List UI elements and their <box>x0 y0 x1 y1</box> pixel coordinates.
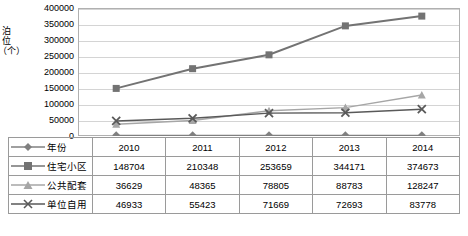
cell-unit-2013: 72693 <box>313 195 386 214</box>
triangle-marker-icon <box>11 180 45 190</box>
diamond-marker-icon <box>11 142 45 152</box>
cell-public-2011: 48365 <box>166 176 239 195</box>
cell-public-2010: 36629 <box>92 176 165 195</box>
cell-residential-2011: 210348 <box>166 157 239 176</box>
y-tick-5: 250000 <box>44 52 74 61</box>
chart-figure: 泊位（个） 0 50000 100000 150000 200000 25000… <box>0 0 468 236</box>
header-2010: 2010 <box>92 138 165 157</box>
y-tick-7: 350000 <box>44 20 74 29</box>
series-layer <box>78 8 460 136</box>
cell-public-2013: 88783 <box>313 176 386 195</box>
cross-marker-icon <box>11 199 45 209</box>
header-2013: 2013 <box>313 138 386 157</box>
y-axis-tick-labels: 0 50000 100000 150000 200000 250000 3000… <box>22 4 74 136</box>
legend-label-unit: 单位自用 <box>47 197 87 211</box>
legend-label-year: 年份 <box>47 140 67 154</box>
legend-cell-residential: 住宅小区 <box>9 157 93 176</box>
y-tick-4: 200000 <box>44 68 74 77</box>
cell-unit-2011: 55423 <box>166 195 239 214</box>
cell-residential-2014: 374673 <box>386 157 459 176</box>
cell-unit-2012: 71669 <box>239 195 312 214</box>
legend-cell-year: 年份 <box>9 138 93 157</box>
header-2012: 2012 <box>239 138 312 157</box>
y-tick-2: 100000 <box>44 100 74 109</box>
y-tick-6: 300000 <box>44 36 74 45</box>
legend-label-public: 公共配套 <box>47 178 87 192</box>
table-row: 住宅小区 148704 210348 253659 344171 374673 <box>9 157 460 176</box>
y-axis-title: 泊位（个） <box>0 26 14 56</box>
cell-unit-2010: 46933 <box>92 195 165 214</box>
cell-public-2012: 78805 <box>239 176 312 195</box>
legend-cell-unit: 单位自用 <box>9 195 93 214</box>
y-tick-1: 50000 <box>49 116 74 125</box>
cell-unit-2014: 83778 <box>386 195 459 214</box>
legend-cell-public: 公共配套 <box>9 176 93 195</box>
header-2014: 2014 <box>386 138 459 157</box>
y-tick-8: 400000 <box>44 4 74 13</box>
table-row-header: 年份 2010 2011 2012 2013 2014 <box>9 138 460 157</box>
cell-residential-2013: 344171 <box>313 157 386 176</box>
cell-residential-2010: 148704 <box>92 157 165 176</box>
data-table: 年份 2010 2011 2012 2013 2014 住宅小区 <box>8 137 460 214</box>
cell-public-2014: 128247 <box>386 176 459 195</box>
y-tick-3: 150000 <box>44 84 74 93</box>
header-2011: 2011 <box>166 138 239 157</box>
table-row: 公共配套 36629 48365 78805 88783 128247 <box>9 176 460 195</box>
table-row: 单位自用 46933 55423 71669 72693 83778 <box>9 195 460 214</box>
square-marker-icon <box>11 161 45 171</box>
legend-label-residential: 住宅小区 <box>47 159 87 173</box>
cell-residential-2012: 253659 <box>239 157 312 176</box>
